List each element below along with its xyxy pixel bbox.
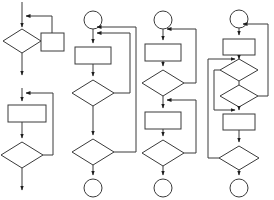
node-c4-terminator-end[interactable] bbox=[230, 179, 248, 197]
node-c4-decision1[interactable] bbox=[220, 59, 258, 81]
node-c3-decision2[interactable] bbox=[142, 140, 184, 166]
node-c1-process2[interactable] bbox=[8, 105, 46, 122]
edge-c4-decision2-feedback bbox=[243, 24, 268, 96]
node-c1-decision1[interactable] bbox=[3, 29, 41, 53]
flow-column-3 bbox=[142, 11, 196, 197]
node-c2-decision2[interactable] bbox=[72, 139, 114, 165]
flow-column-2 bbox=[72, 11, 136, 197]
flowchart-canvas bbox=[0, 0, 274, 200]
node-c1-decision2[interactable] bbox=[1, 142, 43, 168]
node-c4-process2[interactable] bbox=[223, 114, 255, 130]
node-c4-decision2[interactable] bbox=[220, 85, 258, 107]
node-c2-process1[interactable] bbox=[75, 47, 111, 64]
node-c2-decision1[interactable] bbox=[72, 80, 114, 106]
edge-c1-decision2-feedback bbox=[26, 93, 53, 155]
node-c4-terminator-start[interactable] bbox=[230, 10, 248, 28]
node-c4-process1[interactable] bbox=[223, 39, 255, 55]
flow-column-4 bbox=[208, 10, 268, 197]
node-c3-decision1[interactable] bbox=[142, 70, 184, 96]
node-c2-terminator-start[interactable] bbox=[84, 11, 102, 29]
node-c3-terminator-start[interactable] bbox=[154, 11, 172, 29]
flow-column-1 bbox=[1, 2, 64, 190]
node-c2-terminator-end[interactable] bbox=[84, 179, 102, 197]
node-c3-process1[interactable] bbox=[145, 44, 181, 61]
node-c4-decision3[interactable] bbox=[219, 146, 259, 170]
flowchart-diagram bbox=[0, 0, 274, 200]
edge-c1-process1-to-entry bbox=[26, 16, 52, 33]
node-c3-process2[interactable] bbox=[145, 112, 181, 129]
node-c1-process1[interactable] bbox=[41, 33, 64, 51]
node-c3-terminator-end[interactable] bbox=[154, 179, 172, 197]
